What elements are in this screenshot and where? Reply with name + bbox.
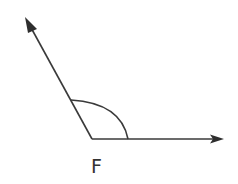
upper-left-ray <box>29 24 92 139</box>
upper-left-arrowhead-icon <box>25 17 37 33</box>
angle-arc <box>71 100 128 139</box>
angle-diagram: F <box>0 0 238 184</box>
vertex-label: F <box>91 155 102 177</box>
